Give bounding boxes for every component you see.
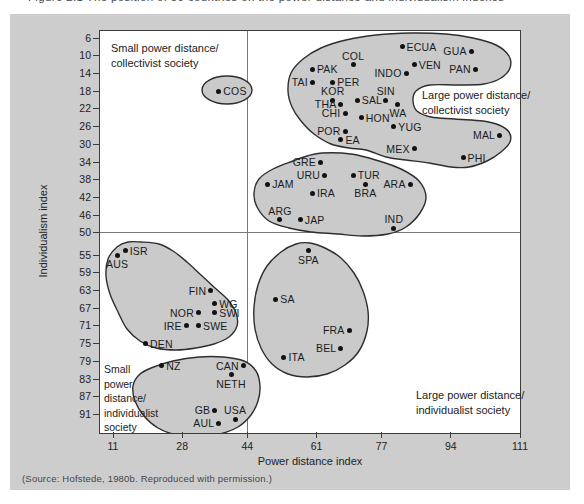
y-axis-title: Individualism index <box>37 185 49 278</box>
country-label-swe: SWE <box>203 320 228 331</box>
country-label-spa: SPA <box>298 255 319 266</box>
data-point-ita <box>281 355 286 360</box>
x-tick-mark <box>182 432 183 438</box>
country-label-chi: CHI <box>322 108 341 119</box>
quadrant-label-line: collectivist society <box>422 103 530 118</box>
country-label-wa: WA <box>389 108 406 119</box>
x-tick-mark <box>520 432 521 438</box>
country-label-isr: ISR <box>130 245 148 256</box>
data-point-tur <box>351 173 356 178</box>
y-tick-label: 55 <box>59 250 91 261</box>
y-tick-mark <box>93 91 99 92</box>
data-point-usa <box>233 417 238 422</box>
data-point-chi <box>343 111 348 116</box>
y-tick-mark <box>93 38 99 39</box>
x-tick-mark <box>247 432 248 438</box>
y-tick-label: 42 <box>59 192 91 203</box>
country-label-bel: BEL <box>316 343 336 354</box>
data-point-neth <box>229 372 234 377</box>
y-tick-mark <box>93 379 99 380</box>
quadrant-label-line: Small power distance/ <box>111 41 219 56</box>
x-tick-mark <box>450 432 451 438</box>
x-tick-mark <box>316 432 317 438</box>
country-label-mal: MAL <box>473 130 495 141</box>
country-label-ara: ARA <box>383 179 405 190</box>
country-label-kor: KOR <box>321 86 344 97</box>
y-tick-mark <box>93 126 99 127</box>
y-tick-label: 22 <box>59 103 91 114</box>
x-tick-mark <box>381 432 382 438</box>
y-tick-mark <box>93 414 99 415</box>
source-note: (Source: Hofstede, 1980b. Reproduced wit… <box>22 473 272 484</box>
y-tick-mark <box>93 255 99 256</box>
y-tick-label: 30 <box>59 139 91 150</box>
y-tick-label: 18 <box>59 86 91 97</box>
data-point-fra <box>347 328 352 333</box>
data-point-col <box>351 62 356 67</box>
data-point-aus <box>115 253 120 258</box>
x-tick-mark <box>113 432 114 438</box>
x-tick-label: 111 <box>505 440 535 452</box>
country-label-tai: TAI <box>292 77 308 88</box>
quadrant-label-line: distance/ <box>104 391 158 406</box>
quadrant-label-line: collectivist society <box>111 56 219 71</box>
country-label-bra: BRA <box>354 188 376 199</box>
data-point-ara <box>408 182 413 187</box>
y-tick-label: 34 <box>59 157 91 168</box>
x-tick-label: 77 <box>367 440 397 452</box>
country-label-mex: MEX <box>386 143 409 154</box>
x-tick-label: 44 <box>232 440 262 452</box>
country-label-tur: TUR <box>358 170 380 181</box>
data-point-phi <box>461 155 466 160</box>
quadrant-label-line: power <box>104 377 158 392</box>
data-point-uru <box>322 173 327 178</box>
country-label-swi: SWI <box>219 307 239 318</box>
country-label-ind: IND <box>384 214 403 225</box>
quadrant-label-small-pd-individualist: Smallpowerdistance/individualistsociety <box>104 362 158 435</box>
x-tick-label: 94 <box>436 440 466 452</box>
y-tick-mark <box>93 144 99 145</box>
country-label-gre: GRE <box>293 157 316 168</box>
plot-area: Individualism index Power distance index… <box>99 30 521 434</box>
quadrant-label-line: Large power distance/ <box>416 388 524 403</box>
data-point-bra <box>363 182 368 187</box>
y-tick-mark <box>93 215 99 216</box>
y-tick-label: 91 <box>59 409 91 420</box>
country-label-hon: HON <box>366 112 390 123</box>
quadrant-label-line: Large power distance/ <box>422 88 530 103</box>
y-tick-mark <box>93 343 99 344</box>
quadrant-label-large-pd-collectivist: Large power distance/collectivist societ… <box>422 88 530 117</box>
data-point-ira <box>310 191 315 196</box>
data-point-spa <box>306 248 311 253</box>
data-point-tai <box>310 80 315 85</box>
data-point-gua <box>469 49 474 54</box>
country-label-por: POR <box>317 126 340 137</box>
x-tick-label: 11 <box>98 440 128 452</box>
country-label-yug: YUG <box>398 121 421 132</box>
x-tick-label: 28 <box>167 440 197 452</box>
y-tick-label: 67 <box>59 303 91 314</box>
quadrant-label-line: Small <box>104 362 158 377</box>
country-label-sal: SAL <box>362 95 382 106</box>
country-label-usa: USA <box>224 404 246 415</box>
country-label-cos: COS <box>223 86 246 97</box>
x-axis-title: Power distance index <box>100 455 520 467</box>
y-tick-mark <box>93 179 99 180</box>
y-tick-label: 10 <box>59 50 91 61</box>
y-tick-mark <box>93 361 99 362</box>
country-label-gb: GB <box>195 405 211 416</box>
data-point-pak <box>310 67 315 72</box>
country-label-ita: ITA <box>288 351 304 362</box>
y-tick-mark <box>93 55 99 56</box>
country-label-arg: ARG <box>268 205 291 216</box>
y-tick-label: 83 <box>59 374 91 385</box>
y-tick-label: 6 <box>59 33 91 44</box>
data-point-sin <box>383 98 388 103</box>
data-point-indo <box>404 71 409 76</box>
data-point-isr <box>123 248 128 253</box>
country-label-gua: GUA <box>443 46 466 57</box>
country-label-aus: AUS <box>106 259 128 270</box>
country-label-phi: PHI <box>468 152 486 163</box>
y-tick-mark <box>93 308 99 309</box>
country-label-sa: SA <box>280 294 294 305</box>
